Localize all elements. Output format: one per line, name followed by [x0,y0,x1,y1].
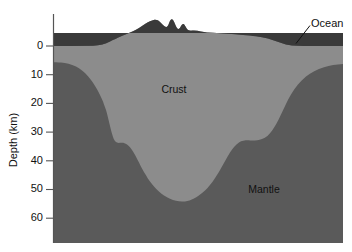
y-tick-label-30: 30 [31,125,43,137]
ocean-label: Ocean [311,17,343,29]
geology-cross-section-svg: Crust Mantle Ocean 0 10 20 30 40 50 60 [0,0,352,252]
y-tick-label-40: 40 [31,154,43,166]
y-tick-label-20: 20 [31,96,43,108]
y-tick-label-10: 10 [31,68,43,80]
y-axis-title: Depth (km) [7,113,19,167]
crust-label: Crust [161,83,186,95]
y-tick-label-0: 0 [37,39,43,51]
mantle-label: Mantle [248,183,280,195]
y-tick-label-60: 60 [31,211,43,223]
y-tick-label-50: 50 [31,182,43,194]
cross-section-figure: Crust Mantle Ocean 0 10 20 30 40 50 60 [0,0,352,252]
